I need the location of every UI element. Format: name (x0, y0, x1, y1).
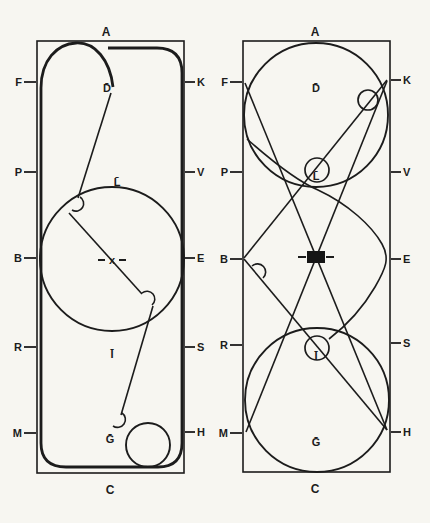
right-label-D: D̄ (312, 82, 320, 94)
left-label-L: L̄ (114, 176, 121, 188)
right-small-circle-K (358, 90, 378, 110)
left-guide-segment-2 (69, 213, 142, 294)
left-bottom-letter: C (106, 483, 115, 497)
left-letter-H: H (197, 426, 205, 438)
figure-page: x D̄ L̄ Ī Ḡ A C F P B R M K V E (0, 0, 430, 523)
right-diagonal-B-H (244, 259, 387, 430)
right-letter-K: K (403, 74, 411, 86)
right-panel-right-ticks: K V E S H (391, 74, 411, 438)
left-guide-segment-1 (78, 93, 111, 198)
left-letter-K: K (197, 76, 205, 88)
left-letter-F: F (15, 76, 22, 88)
right-letter-S: S (403, 337, 410, 349)
figure-canvas: x D̄ L̄ Ī Ḡ A C F P B R M K V E (0, 0, 430, 523)
right-circle-D (244, 43, 388, 187)
left-center-x-label: x (109, 254, 116, 266)
left-guide-segment-3 (121, 306, 153, 415)
right-label-L: L̄ (313, 170, 320, 182)
left-letter-M: M (13, 427, 22, 439)
right-letter-R: R (220, 339, 228, 351)
left-notch-2 (142, 291, 155, 305)
left-label-G: Ḡ (106, 433, 115, 445)
left-panel-left-ticks: F P B R M (13, 76, 36, 439)
right-panel: D̄ L̄ Ī Ḡ A C F P B R M K V E S (219, 25, 411, 496)
left-letter-E: E (197, 252, 204, 264)
right-letter-V: V (403, 166, 411, 178)
left-letter-S: S (197, 341, 204, 353)
right-letter-E: E (403, 253, 410, 265)
page: { "colors": { "ink": "#1c1c1c", "paper":… (0, 0, 430, 523)
left-panel: x D̄ L̄ Ī Ḡ A C F P B R M K V E (13, 25, 205, 497)
right-letter-M: M (219, 427, 228, 439)
left-letter-P: P (15, 166, 22, 178)
right-diagonal-K-B (244, 80, 387, 258)
right-bottom-letter: C (311, 482, 320, 496)
left-loop-circle (126, 423, 170, 467)
right-letter-P: P (221, 166, 228, 178)
left-letter-R: R (14, 341, 22, 353)
right-letter-F: F (221, 76, 228, 88)
right-panel-left-ticks: F P B R M (219, 76, 242, 439)
right-center-square (307, 251, 325, 263)
left-letter-V: V (197, 166, 205, 178)
left-panel-right-ticks: K V E S H (185, 76, 205, 438)
right-letter-B: B (220, 253, 228, 265)
left-top-letter: A (102, 25, 111, 39)
right-letter-H: H (403, 426, 411, 438)
right-top-letter: A (311, 25, 320, 39)
left-letter-B: B (14, 252, 22, 264)
right-label-G: Ḡ (312, 436, 321, 448)
left-label-D: D̄ (103, 82, 111, 94)
left-notch-3 (113, 413, 125, 427)
left-label-I: Ī (109, 348, 114, 360)
